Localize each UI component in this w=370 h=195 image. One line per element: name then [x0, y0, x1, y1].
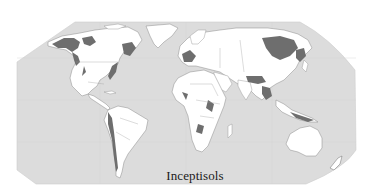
- map-caption: Inceptisols: [150, 168, 240, 184]
- world-soil-map: Inceptisols: [0, 0, 370, 195]
- map-canvas: [0, 0, 370, 195]
